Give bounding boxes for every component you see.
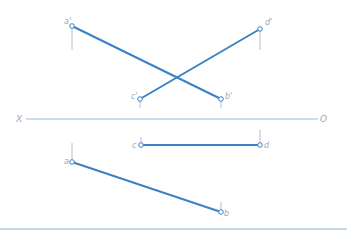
point-d [258,143,263,148]
label-d: d [264,141,270,150]
label-a: a [64,157,69,166]
label-b-prime: b' [225,92,232,101]
label-b: b [224,209,229,218]
point-b [219,210,224,215]
point-d-prime [258,27,263,32]
segment-ab [72,162,221,212]
axis-label-x: X [15,114,23,124]
point-c-prime [138,97,143,102]
label-c: c [132,141,137,150]
label-c-prime: c' [131,92,138,101]
label-a-prime: a' [64,17,71,26]
label-d-prime: d' [265,18,272,27]
point-a [70,160,75,165]
projection-diagram: X O a' d' c' b' a c d b [0,0,347,235]
point-c [139,143,144,148]
point-b-prime [219,97,224,102]
axis-label-o: O [320,114,327,124]
segment-a-prime-b-prime [72,26,221,99]
